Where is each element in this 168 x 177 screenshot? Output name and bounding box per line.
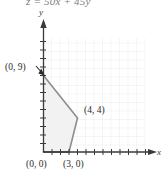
linear-programming-figure: z = 50x + 45y xyxy=(0,0,168,177)
vertex-label-0-9: (0, 9) xyxy=(5,62,26,72)
x-axis-arrow-icon xyxy=(148,149,157,155)
y-axis-arrow-icon xyxy=(40,19,46,28)
vertex-label-3-0: (3, 0) xyxy=(63,159,84,169)
vertex-label-4-4: (4, 4) xyxy=(84,105,105,115)
vertex-label-0-0: (0, 0) xyxy=(26,159,47,169)
plot-area xyxy=(0,0,168,177)
y-axis-label: y xyxy=(39,7,43,17)
x-axis-label: x xyxy=(157,147,161,157)
